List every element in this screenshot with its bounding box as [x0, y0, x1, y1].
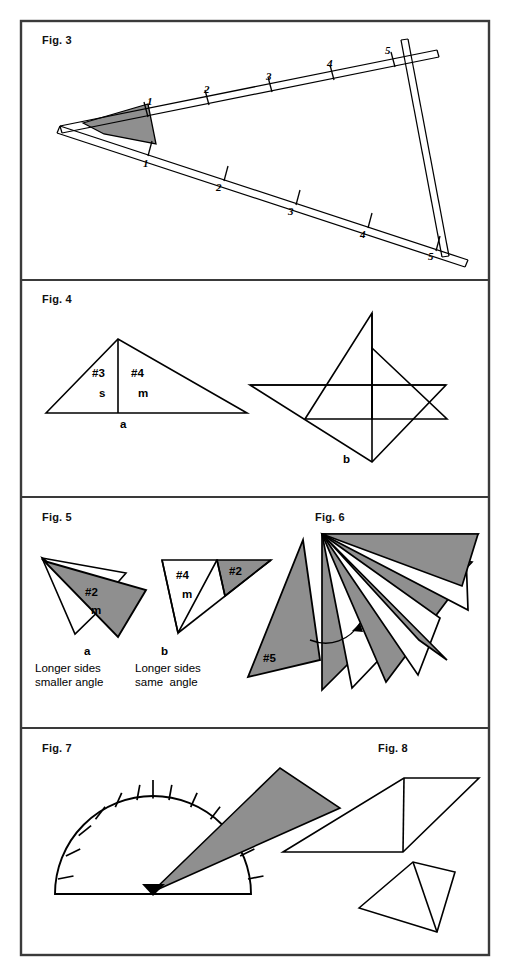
fig4-side-lower-label: m	[138, 387, 148, 399]
fig3-upper-tick-3: 3	[266, 70, 272, 82]
fig8-parallelogram	[283, 778, 479, 852]
fig5a-tag: a	[84, 645, 90, 657]
fig3-upper-tick-4: 4	[327, 57, 333, 69]
fig6-artwork	[248, 534, 478, 690]
fig6-wedge-5	[248, 540, 320, 677]
fig6-arrow	[310, 623, 363, 643]
fig4-artwork	[46, 313, 447, 462]
fig5b-caption-line1: Longer sides	[135, 661, 201, 675]
fig3-upper-tick-1: 1	[147, 95, 153, 107]
fig3-lower-tick-2: 2	[216, 181, 222, 193]
fig3-lower-tick-4: 4	[360, 228, 366, 240]
fig3-artwork	[57, 39, 468, 267]
fig6-wedge-5-label: #5	[263, 652, 276, 664]
fig3-lower-tick-3: 3	[288, 205, 294, 217]
fig3-label: Fig. 3	[42, 34, 72, 46]
fig3-shaded-angle	[83, 104, 156, 144]
fig8-label: Fig. 8	[378, 742, 408, 754]
fig4-vertex-b-label: b	[343, 453, 350, 465]
fig7-protractor-body	[55, 796, 251, 894]
fig5-label: Fig. 5	[42, 511, 72, 523]
fig5b-angle-right-label: #2	[229, 565, 242, 577]
fig3-upper-tick-2: 2	[204, 83, 210, 95]
fig7-pivot-marker	[142, 884, 165, 896]
fig3-lower-tick-1: 1	[143, 157, 149, 169]
fig5a-caption-line2: smaller angle	[35, 675, 103, 689]
fig3-upper-straightedge	[60, 50, 439, 133]
fig5b-caption-line2: same angle	[135, 675, 198, 689]
fig7-protractor-ticks	[58, 780, 264, 879]
fig7-label: Fig. 7	[42, 742, 72, 754]
fig5b-angle-left-label: #4	[176, 569, 189, 581]
fig7-shaded-wedge	[152, 768, 340, 892]
fig8-quadrilateral	[359, 862, 455, 932]
fig4-label: Fig. 4	[42, 293, 72, 305]
fig6-fan	[322, 534, 478, 690]
fig4-side-upper-label: #4	[131, 367, 144, 379]
fig5a-angle-label: #2	[85, 586, 98, 598]
fig5a-caption-line1: Longer sides	[35, 661, 101, 675]
fig6-label: Fig. 6	[315, 511, 345, 523]
fig3-cross-straightedge	[401, 39, 449, 257]
fig7-artwork	[55, 768, 340, 896]
fig3-lower-tick-5: 5	[428, 250, 434, 262]
figure-artwork	[0, 0, 510, 969]
fig4-angle-upper-label: #3	[92, 367, 105, 379]
fig4-right-figure	[250, 313, 447, 462]
fig5b-size-left-label: m	[182, 588, 192, 600]
figure-sheet: Fig. 3 1 2 3 4 5 1 2 3 4 5 Fig. 4 #3 s #…	[0, 0, 510, 969]
fig4-left-triangle	[46, 339, 247, 413]
fig3-lower-straightedge	[57, 126, 468, 267]
fig5a-size-label: m	[91, 604, 101, 616]
fig5b-tag: b	[161, 645, 168, 657]
fig4-angle-lower-label: s	[99, 387, 105, 399]
fig4-base-label: a	[120, 418, 126, 430]
fig8-artwork	[283, 778, 479, 932]
fig3-upper-tick-5: 5	[385, 44, 391, 56]
sheet-border	[21, 21, 489, 955]
